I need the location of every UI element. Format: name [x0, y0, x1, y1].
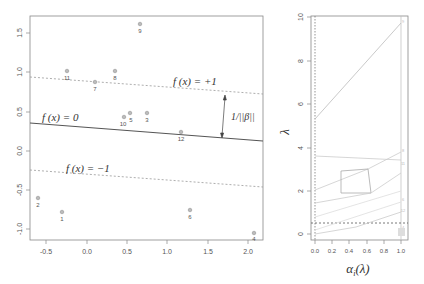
path-end-label: 9	[402, 19, 405, 24]
path-end-label: 8	[402, 148, 405, 153]
x-tick: 0.0	[311, 248, 320, 254]
coefficient-paths	[315, 23, 401, 234]
right-y-tick-labels: 10 8 6 4 2 0	[297, 13, 304, 236]
right-x-axis	[315, 240, 401, 244]
y-tick: 8	[297, 59, 304, 63]
right-x-tick-labels: 0.0 0.2 0.4 0.6 0.8 1.0	[311, 248, 406, 254]
y-tick: 2	[297, 189, 304, 193]
x-tick: 0.8	[380, 248, 389, 254]
path-line	[315, 23, 401, 119]
x-tick: 0.6	[363, 248, 372, 254]
right-x-axis-label: αi(λ)	[346, 261, 369, 278]
x-tick: 1.0	[397, 248, 406, 254]
path-line	[341, 169, 371, 193]
y-tick: 10	[297, 13, 304, 21]
path-end-label: 11	[401, 161, 406, 166]
y-tick: 4	[297, 146, 304, 150]
right-y-axis	[307, 17, 311, 234]
path-end-label: 12	[401, 208, 406, 213]
path-end-labels: 9 8 11 6 12 4	[401, 19, 406, 230]
x-tick: 0.4	[345, 248, 354, 254]
path-line	[315, 191, 401, 217]
path-end-cluster	[398, 228, 405, 236]
path-line	[315, 173, 401, 203]
path-end-label: 6	[402, 197, 405, 202]
y-tick: 6	[297, 102, 304, 106]
right-path-plot: 10 8 6 4 2 0 0.0 0.2 0.4 0.6 0.8 1.0 λ α…	[0, 0, 424, 284]
path-line	[315, 156, 401, 160]
right-plot-frame	[311, 16, 408, 240]
right-y-axis-label: λ	[277, 129, 292, 136]
y-tick: 0	[297, 232, 304, 236]
x-tick: 0.2	[328, 248, 337, 254]
